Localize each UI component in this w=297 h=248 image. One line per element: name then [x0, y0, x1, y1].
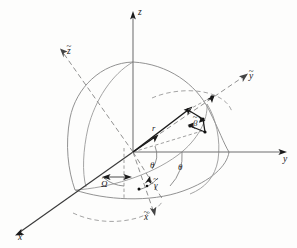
vector-r-label-text: r [152, 123, 155, 133]
sphere-meridian-left [84, 62, 133, 187]
beta-tilde-accent: ~ [193, 113, 198, 122]
arc-node-on-gamma [138, 188, 141, 191]
y-axis-label-text: y [283, 154, 287, 164]
z-axis-label-text: z [138, 7, 142, 17]
sphere-outline-left [68, 62, 133, 190]
angle-theta-inner-label: θ [150, 161, 154, 170]
y-tilde-accent: ~ [249, 67, 254, 76]
vector-r-label: r [152, 124, 155, 133]
angle-theta-inner-text: θ [150, 160, 154, 170]
z-tilde-accent: ~ [66, 42, 71, 51]
x-axis-label: x [18, 233, 22, 243]
angle-beta-tilde-label: ~ β [193, 119, 197, 128]
figure-root: z y x ~ z ~ y ~ x r ~ Ω [0, 0, 297, 248]
beta-quad-node-right [203, 130, 206, 133]
z-axis-label: z [138, 8, 142, 18]
x-axis-line [20, 152, 133, 232]
x-tilde-axis-arrowhead [150, 207, 157, 216]
z-tilde-axis-label: ~ z [67, 47, 71, 57]
y-tilde-axis-arrowhead [239, 74, 248, 83]
angle-theta-outer-text: θ [178, 162, 182, 172]
gamma-tilde-accent: ~ [153, 175, 158, 184]
gamma-tilde-arrowhead [145, 176, 152, 184]
angle-gamma-tilde-label: ~ γ [154, 181, 158, 190]
sphere-outline-right [133, 62, 229, 152]
sphere-equator-back-dashed [152, 91, 232, 112]
angle-omega-tilde-label: ~ Ω [101, 180, 108, 189]
omega-tilde-accent: ~ [102, 174, 107, 183]
y-axis-label: y [283, 155, 287, 165]
vector-r-projection-dashed [133, 131, 202, 152]
angle-theta-outer-label: θ [178, 163, 182, 172]
x-axis-label-text: x [18, 232, 22, 242]
arc-node-on-xtilde [146, 185, 149, 188]
x-tilde-accent: ~ [144, 208, 149, 217]
x-tilde-axis-label: ~ x [144, 213, 148, 223]
y-tilde-axis-label: ~ y [249, 72, 253, 82]
unit-vector-line [133, 137, 155, 152]
